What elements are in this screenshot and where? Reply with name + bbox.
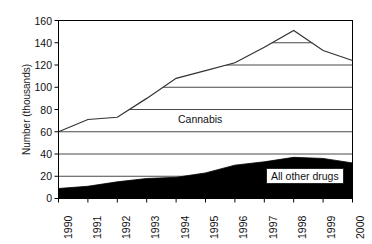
series-label-cannabis: Cannabis — [178, 113, 222, 125]
series-label-all-other-drugs: All other drugs — [266, 168, 344, 184]
y-axis-ticks — [55, 21, 59, 199]
chart-figure: Number (thousands) 160 140 120 100 80 60… — [0, 0, 372, 244]
x-axis-ticks — [59, 199, 353, 203]
